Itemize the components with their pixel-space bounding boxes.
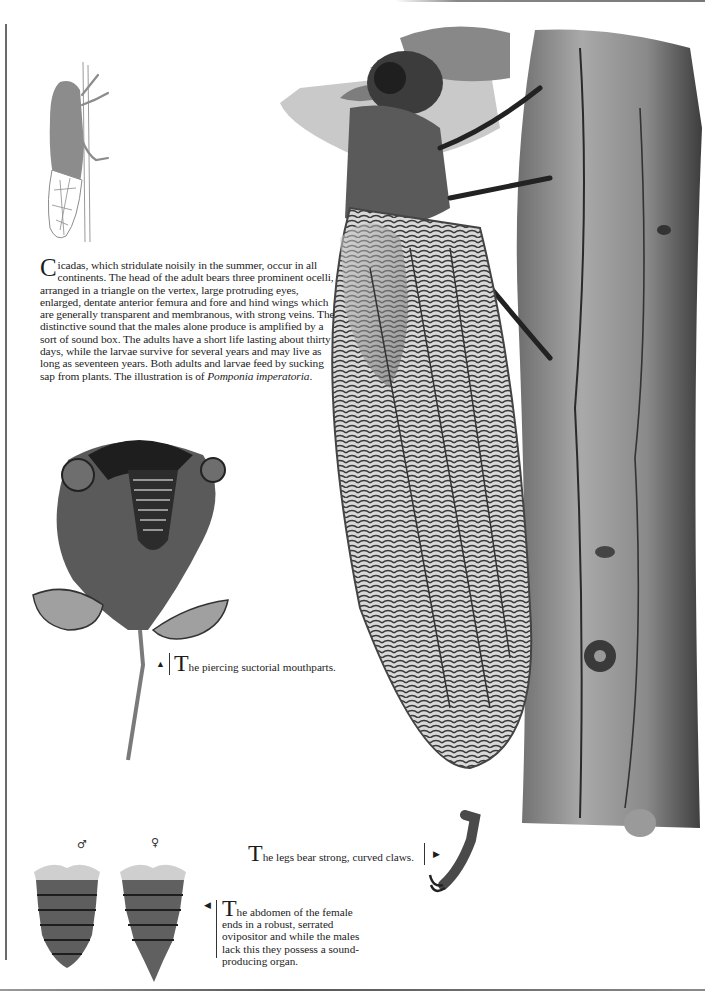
- caption-drop-cap: T: [174, 650, 189, 676]
- female-symbol: ♀: [151, 836, 159, 849]
- caption-drop-cap: T: [248, 840, 263, 866]
- caption-divider: [169, 653, 170, 675]
- main-description-paragraph: Cicadas, which stridulate noisily in the…: [40, 259, 340, 382]
- drop-cap: C: [40, 259, 57, 277]
- top-edge-rule: [395, 0, 705, 2]
- male-symbol: ♂: [77, 838, 87, 851]
- cicada-silhouette-illustration: [38, 60, 123, 245]
- description-text: icadas, which stridulate noisily in the …: [40, 259, 335, 382]
- right-arrow-icon: ▶: [433, 850, 440, 859]
- caption-abdomen: ◀ The abdomen of the female ends in a ro…: [204, 900, 372, 967]
- cicada-on-bark-illustration: [250, 8, 705, 838]
- left-arrow-icon: ◀: [204, 901, 211, 910]
- up-arrow-icon: ▲: [156, 660, 165, 669]
- caption-drop-cap: T: [222, 895, 237, 921]
- caption-text: he abdomen of the female ends in a robus…: [222, 906, 359, 967]
- species-name: Pomponia imperatoria: [207, 370, 309, 382]
- bottom-edge-rule: [0, 989, 705, 991]
- caption-divider: [424, 843, 425, 865]
- caption-text: he piercing suctorial mouthparts.: [189, 661, 336, 673]
- abdomen-male-illustration: [32, 860, 102, 975]
- left-margin-rule: [5, 24, 7, 960]
- mouthparts-illustration: [28, 430, 238, 830]
- abdomen-female-illustration: [118, 860, 188, 985]
- caption-divider: [216, 900, 217, 958]
- caption-mouthparts: ▲ The piercing suctorial mouthparts.: [156, 653, 336, 675]
- caption-text: he legs bear strong, curved claws.: [263, 851, 414, 863]
- description-end: .: [309, 370, 312, 382]
- caption-legs: The legs bear strong, curved claws. ▶: [248, 843, 440, 865]
